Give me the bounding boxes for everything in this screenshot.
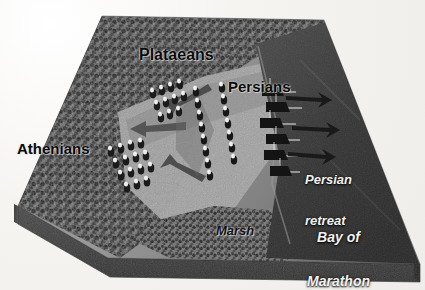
label-bay-line2: Marathon [307, 274, 370, 289]
label-marsh: Marsh [216, 224, 254, 238]
label-persians: Persians [228, 79, 291, 95]
label-bay-of-marathon: Bay of Marathon [307, 201, 370, 290]
relief-map-figure: Plataeans Persians Athenians Persian ret… [0, 0, 425, 290]
label-bay-line1: Bay of [307, 230, 370, 245]
label-plataeans: Plataeans [139, 47, 214, 64]
label-persian-retreat-line1: Persian [305, 173, 352, 187]
label-athenians: Athenians [17, 141, 90, 157]
